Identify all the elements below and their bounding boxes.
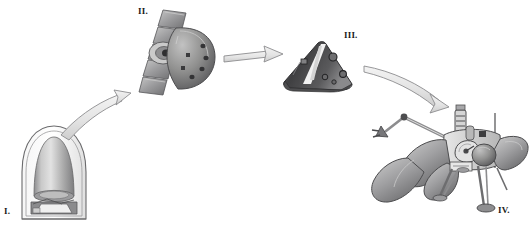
port-2 [203, 56, 208, 60]
payload-base-inner-ring [39, 191, 69, 199]
boom-lower-segment [386, 117, 404, 131]
scoop-tine-2 [373, 135, 380, 137]
stage-2-label: II. [138, 6, 148, 16]
stage-4-label: IV. [498, 205, 510, 215]
figure-canvas: I. II. III. IV. [0, 0, 529, 229]
boom-upper-highlight [404, 117, 449, 139]
leg-strut-center-a [478, 166, 484, 206]
port-square-2 [181, 66, 185, 70]
base-equipment-box [33, 208, 40, 213]
stage-3-entry-aeroshell [284, 42, 352, 92]
solar-panel-petal-lower-left [372, 158, 424, 202]
equipment-black-box [479, 131, 486, 137]
footpad-left [433, 195, 447, 201]
arrow-stage-1-to-2 [61, 90, 131, 140]
hatch-4 [332, 80, 336, 84]
port-1 [200, 44, 205, 48]
port-square-1 [186, 53, 190, 57]
arrowhead-2-to-3 [264, 46, 283, 62]
hatch-3 [322, 74, 328, 80]
arrow-stage-3-to-4 [364, 66, 449, 113]
leg-strut-right [497, 168, 507, 190]
stage-3-label: III. [344, 30, 358, 40]
port-4 [189, 75, 194, 79]
solar-panel-segment-5 [139, 77, 167, 95]
equipment-cylinder [466, 126, 474, 140]
hatch-1 [329, 53, 337, 61]
boom-elbow-joint [401, 114, 408, 121]
mast-cap [456, 105, 465, 110]
leg-strut-center-b [486, 166, 488, 206]
stage-4-deployed-lander [372, 105, 528, 212]
footpad-center [477, 204, 495, 212]
spacecraft-mission-sequence-illustration [0, 0, 529, 229]
hatch-square [301, 59, 307, 64]
arrow-stage-2-to-3 [224, 46, 283, 62]
robotic-boom-arm [372, 114, 452, 142]
base-deck-plate [36, 204, 72, 213]
stage-2-cruise-configuration [139, 10, 215, 95]
hatch-2 [340, 71, 347, 78]
stage-1-launch-fairing [22, 126, 86, 219]
instrument-tray-disc [457, 168, 469, 173]
port-3 [199, 67, 204, 71]
scoop-tine-1 [372, 130, 379, 131]
stage-1-label: I. [4, 206, 10, 216]
